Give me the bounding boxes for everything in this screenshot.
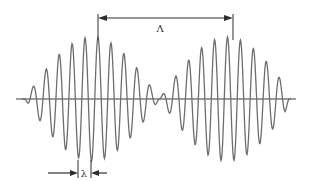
beat-wavelength-label: Λ <box>155 23 164 34</box>
left-arrowhead-icon <box>98 15 107 21</box>
carrier-wavelength-marker: λ <box>48 160 107 179</box>
right-pointing-arrowhead-icon <box>70 170 78 176</box>
left-pointing-arrowhead-icon <box>91 170 99 176</box>
beat-wave-diagram: Λ λ <box>0 0 310 182</box>
right-arrowhead-icon <box>224 15 233 21</box>
carrier-wavelength-label: λ <box>81 168 88 179</box>
beat-wavelength-marker: Λ <box>98 14 233 40</box>
